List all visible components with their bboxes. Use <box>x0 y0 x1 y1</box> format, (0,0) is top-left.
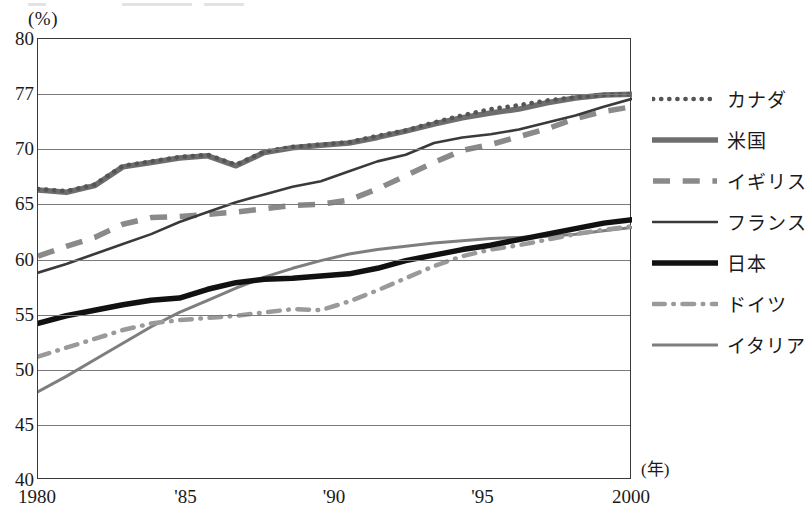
gridline <box>38 370 630 371</box>
legend: カナダ米国イギリスフランス日本ドイツイタリア <box>652 78 812 365</box>
gridline <box>38 425 630 426</box>
gridline <box>38 149 630 150</box>
legend-item-label: イギリス <box>727 167 807 194</box>
legend-item-4[interactable]: 日本 <box>652 242 812 283</box>
series-line <box>38 99 632 273</box>
legend-line-swatch-icon <box>652 215 718 229</box>
gridline <box>38 260 630 261</box>
legend-item-3[interactable]: フランス <box>652 201 812 242</box>
legend-item-0[interactable]: カナダ <box>652 78 812 119</box>
y-axis-tick-label: 80 <box>0 29 34 48</box>
legend-line-swatch-icon <box>652 133 718 147</box>
x-axis-unit-label: (年) <box>641 455 669 480</box>
x-axis-tick-label: '95 <box>471 487 493 506</box>
y-axis: 807770656055504540 <box>0 38 34 479</box>
legend-line-swatch-icon <box>652 256 718 270</box>
legend-item-2[interactable]: イギリス <box>652 160 812 201</box>
legend-line-swatch-icon <box>652 338 718 352</box>
y-axis-tick-label: 60 <box>0 250 34 269</box>
y-axis-tick-label: 70 <box>0 139 34 158</box>
x-axis-tick-label: 2000 <box>612 487 650 506</box>
scan-artifact <box>28 0 328 9</box>
chart-page: (%) 807770656055504540 1980'85'90'952000… <box>0 0 812 524</box>
x-axis: 1980'85'90'952000 <box>0 487 660 517</box>
legend-line-swatch-icon <box>652 297 718 311</box>
legend-item-5[interactable]: ドイツ <box>652 283 812 324</box>
legend-item-6[interactable]: イタリア <box>652 324 812 365</box>
legend-line-swatch-icon <box>652 92 718 106</box>
x-axis-tick-label: 1980 <box>18 487 56 506</box>
legend-item-label: 日本 <box>727 249 767 276</box>
plot-area <box>37 38 631 479</box>
y-axis-tick-label: 45 <box>0 415 34 434</box>
gridline <box>38 204 630 205</box>
y-axis-unit-label: (%) <box>28 8 58 30</box>
gridline <box>38 94 630 95</box>
legend-item-label: カナダ <box>727 85 787 112</box>
legend-item-label: フランス <box>727 208 807 235</box>
series-line <box>38 226 632 356</box>
legend-line-swatch-icon <box>652 174 718 188</box>
y-axis-tick-label: 55 <box>0 305 34 324</box>
y-axis-tick-label: 65 <box>0 194 34 213</box>
gridline <box>38 315 630 316</box>
x-axis-tick-label: '90 <box>323 487 345 506</box>
series-line <box>38 228 632 392</box>
legend-item-1[interactable]: 米国 <box>652 119 812 160</box>
legend-item-label: 米国 <box>727 126 767 153</box>
y-axis-tick-label: 50 <box>0 360 34 379</box>
x-axis-tick-label: '85 <box>174 487 196 506</box>
legend-item-label: ドイツ <box>727 290 787 317</box>
legend-item-label: イタリア <box>727 331 806 358</box>
y-axis-tick-label: 77 <box>0 84 34 103</box>
